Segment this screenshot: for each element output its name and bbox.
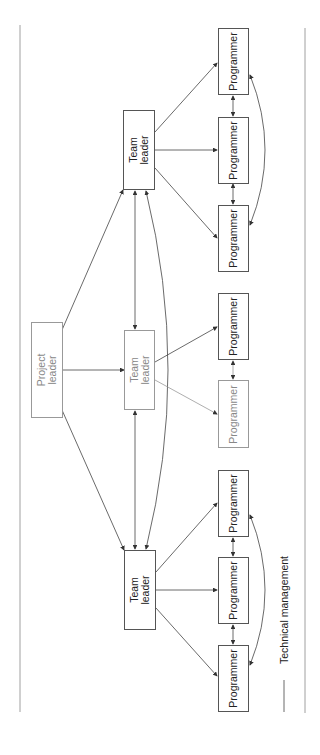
team-leader-box-middle: Team leader (124, 330, 155, 410)
programmer-box: Programmer (218, 117, 249, 184)
project-leader-label: Project leader (36, 354, 58, 387)
programmer-label: Programmer (228, 209, 239, 267)
project-leader-box: Project leader (31, 322, 63, 418)
team-leader-label: Team leader (129, 575, 151, 604)
team-leader-box-top: Team leader (123, 110, 155, 190)
programmer-label: Programmer (228, 297, 239, 355)
programmer-box: Programmer (218, 645, 249, 712)
programmer-box: Programmer (218, 470, 249, 537)
legend-label: Technical management (278, 584, 290, 664)
programmer-box: Programmer (218, 205, 249, 272)
programmer-label: Programmer (228, 649, 239, 707)
team-leader-label: Team leader (129, 355, 151, 384)
programmer-label: Programmer (228, 561, 239, 619)
team-leader-box-bottom: Team leader (124, 550, 156, 630)
team-leader-label: Team leader (128, 135, 150, 164)
programmer-box: Programmer (218, 380, 249, 448)
programmer-label: Programmer (228, 121, 239, 179)
programmer-label: Programmer (228, 385, 239, 443)
programmer-box: Programmer (218, 557, 249, 624)
programmer-label: Programmer (228, 474, 239, 532)
programmer-box: Programmer (218, 28, 249, 95)
programmer-box: Programmer (218, 293, 249, 360)
programmer-label: Programmer (228, 32, 239, 90)
